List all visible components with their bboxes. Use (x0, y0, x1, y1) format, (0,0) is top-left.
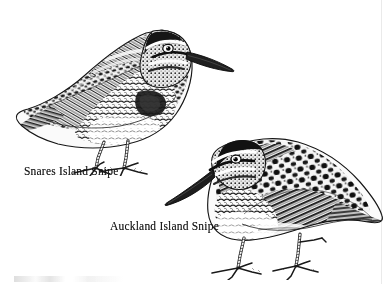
caption-auckland-island-snipe: Auckland Island Snipe (110, 220, 219, 232)
illustration-plate: Snares Island Snipe Auckland Island Snip… (0, 0, 386, 284)
caption-snares-island-snipe: Snares Island Snipe (24, 165, 119, 177)
scan-artifact-line (381, 0, 382, 284)
auckland-island-snipe-illustration (158, 130, 384, 280)
cropped-text-smudge (14, 276, 134, 282)
